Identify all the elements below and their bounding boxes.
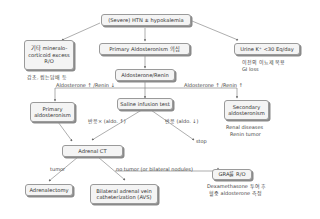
node-saline-test: Saline infusion test — [117, 98, 173, 110]
node-urine-k: Urine K⁺ <30 Eq/day — [234, 43, 300, 55]
node-secondary-aldosteronism: Secondary aldosteronism — [224, 100, 269, 120]
edge-saline-stop — [148, 108, 194, 140]
edge-ratio-secondary — [145, 88, 237, 98]
note-gra-2: 혈중 aldosterone 측정 — [209, 190, 262, 196]
node-primary-suspect: Primary Aldosteronism 의심 — [99, 43, 190, 55]
node-avs: Bilateral adrenal vein catheterization (… — [90, 184, 158, 204]
note-secondary-2: Renin tumor — [230, 131, 261, 137]
node-gra: GRA를 R/O — [212, 169, 252, 180]
note-urine-1: 이전의 이뇨제 복용 — [242, 59, 285, 65]
label-no-response: 반응× (aldo. ↑) — [88, 118, 126, 124]
label-tumor: tumor — [50, 166, 65, 172]
node-root: (Severe) HTN ± hypokalemia — [101, 14, 191, 26]
label-stop: stop — [196, 138, 207, 144]
edge-root-other — [62, 23, 100, 40]
edge-saline-ct — [92, 108, 145, 140]
label-aldo-up-renin-up: Aldosterone ↑ /Renin ↑ — [184, 82, 243, 88]
note-gra-1: Dexamethasone 투여 후 — [207, 183, 266, 189]
node-aldosterone-renin: Aldosterone/Renin — [115, 69, 175, 81]
edge-root-urine — [192, 21, 238, 40]
node-primary-aldosteronism: Primary aldosteronism — [30, 102, 75, 122]
label-no-tumor: no tumor (or bilateral nodules) — [116, 166, 193, 172]
note-other-mc: 감초, 씹는담배 등 — [27, 74, 67, 80]
label-aldo-up-renin-down: Aldosterone ↑ /Renin ↓ — [56, 82, 115, 88]
node-adrenalectomy: Adrenalectomy — [25, 184, 73, 196]
node-adrenal-ct: Adrenal CT — [62, 145, 123, 157]
node-other-mineralocorticoid: 기타 mineralo-corticoid excess R/O — [24, 40, 74, 70]
note-secondary-1: Renal diseases — [226, 124, 263, 130]
edge-primary-ct — [58, 122, 72, 141]
label-response: 반응 (aldo. ↓) — [165, 118, 198, 124]
note-urine-2: GI loss — [242, 66, 259, 72]
